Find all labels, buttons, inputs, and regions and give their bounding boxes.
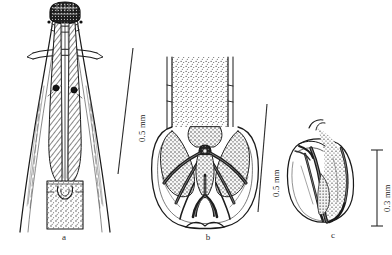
panel-c-caudal-bursa-lateral: c [283,118,368,233]
panel-a-caption: a [56,232,72,242]
scale-label-c: 0.3 mm [382,184,392,212]
panel-b-caudal-bursa-ventral: b [150,55,260,235]
panel-c-caption: c [325,230,341,240]
scale-label-a: 0.5 mm [137,114,147,142]
scale-bar-a [108,40,142,185]
scale-bar-b [250,98,276,220]
figure-plate: a 0.5 mm [0,0,392,255]
panel-b-caption: b [200,232,216,242]
panel-b-drawing [150,55,260,235]
panel-c-drawing [283,118,368,233]
scale-label-b: 0.5 mm [271,169,281,197]
